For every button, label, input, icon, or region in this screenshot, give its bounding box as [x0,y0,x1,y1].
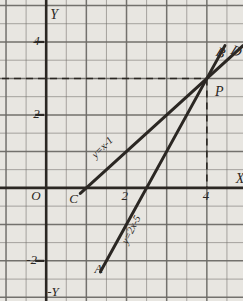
graph-figure: Y X -Y O 2 4 2 4 -2 A B C D P y=x-1 y=2x… [0,0,243,301]
negative-y-axis-label: -Y [47,285,59,298]
plot-line-line-CD [80,46,243,194]
y-tick-label-2: 2 [33,107,40,120]
point-label-p: P [215,85,224,99]
point-label-c: C [69,192,78,205]
y-tick-label-minus-2: -2 [26,253,37,266]
x-tick-label-4: 4 [203,189,210,202]
y-tick-label-4: 4 [33,34,40,47]
origin-label: O [31,189,40,202]
x-tick-label-2: 2 [122,189,129,202]
y-axis-label: Y [50,8,58,22]
x-axis-label: X [236,172,243,186]
point-label-a: A [94,262,102,275]
